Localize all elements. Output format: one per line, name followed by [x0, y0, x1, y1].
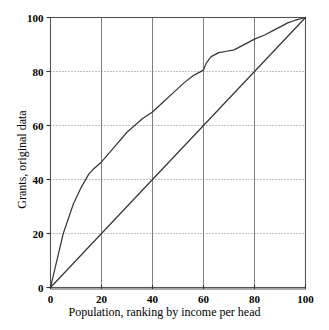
chart-plot-svg [0, 0, 329, 330]
x-tick-label: 60 [198, 294, 209, 305]
y-tick-label: 80 [0, 66, 44, 77]
x-tick-label: 20 [96, 294, 107, 305]
y-tick-label: 100 [0, 12, 44, 23]
x-axis-label: Population, ranking by income per head [0, 305, 329, 320]
x-tick-label: 40 [147, 294, 158, 305]
x-tick-label: 100 [297, 294, 314, 305]
data-series-line-1 [51, 18, 306, 288]
y-axis-label: Grants, original data [15, 80, 30, 240]
chart-figure: 020406080100 020406080100 Population, ra… [0, 0, 329, 330]
y-tick-label: 0 [0, 282, 44, 293]
data-series-layer [51, 18, 306, 288]
x-tick-label: 80 [249, 294, 260, 305]
x-tick-label: 0 [48, 294, 54, 305]
